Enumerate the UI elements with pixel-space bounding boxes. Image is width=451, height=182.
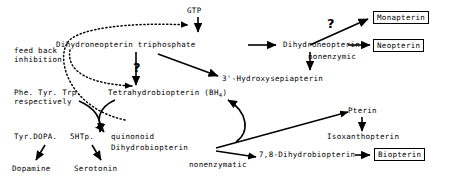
question-mark-lower: ? xyxy=(133,61,141,74)
label-respectively: respectively xyxy=(14,97,72,106)
node-tyr-dopa: Tyr.DOPA. xyxy=(14,132,57,141)
node-serotonin: Serotonin xyxy=(74,164,117,173)
node-dopamine: Dopamine xyxy=(12,164,51,173)
arrow-phe-tyr-trp-to-products xyxy=(79,101,100,132)
node-dihydroneopterin-triphosphate: Dihydroneopterin triphosphate xyxy=(56,40,196,49)
arrow-triphosphate-to-hydroxysepiapterin xyxy=(158,54,218,76)
node-tetrahydrobiopterin: Tetrahydrobiopterin (BH4) xyxy=(108,88,227,100)
label-feed-back: feed back xyxy=(14,46,57,55)
node-dihydrobiopterin: Dihydrobiopterin xyxy=(111,143,188,152)
node-neopterin: Neopterin xyxy=(373,39,424,52)
node-phe-tyr-trp: Phe. Tyr. Trp. xyxy=(14,88,81,97)
arrow-5htp-to-serotonin xyxy=(92,145,101,160)
arrow-quinonoid-to-tetrahydrobiopterin xyxy=(228,100,245,142)
node-hydroxysepiapterin: 3'-Hydroxysepiapterin xyxy=(222,74,323,83)
label-nonenzymatic: nonenzymatic xyxy=(189,160,247,169)
arrow-dihydrobiopterin-to-pterin xyxy=(216,112,348,148)
tetrahydrobiopterin-paren: ) xyxy=(222,88,227,97)
node-gtp: GTP xyxy=(187,6,201,15)
tetrahydrobiopterin-text: Tetrahydrobiopterin (BH xyxy=(108,88,219,97)
node-biopterin: Biopterin xyxy=(374,148,425,161)
node-quinonoid: quinonoid xyxy=(111,132,154,141)
node-pterin: Pterin xyxy=(348,106,377,115)
label-inhibition: inhibition xyxy=(14,55,62,64)
node-isoxanthopterin: Isoxanthopterin xyxy=(327,132,399,141)
question-mark-upper: ? xyxy=(327,17,335,30)
pathway-diagram: GTP Dihydroneopterin triphosphate Dihydr… xyxy=(0,0,451,182)
node-5htp: 5HTp. xyxy=(70,132,94,141)
node-monapterin: Monapterin xyxy=(373,11,429,24)
dotted-feedback-arrow-to-tetrahydrobiopterin xyxy=(70,50,132,86)
node-78-dihydrobiopterin: 7,8-Dihydrobiopterin xyxy=(259,150,355,159)
dotted-feedback-arrow-to-gtp xyxy=(64,24,188,120)
arrow-dihydrobiopterin-to-78-dihydrobiopterin xyxy=(216,151,256,157)
label-nonenzymic: nonenzymic xyxy=(308,52,356,61)
arrow-tyrdopa-to-dopamine xyxy=(36,145,45,160)
node-dihydroneopterin: Dihydroneopterin xyxy=(283,40,360,49)
